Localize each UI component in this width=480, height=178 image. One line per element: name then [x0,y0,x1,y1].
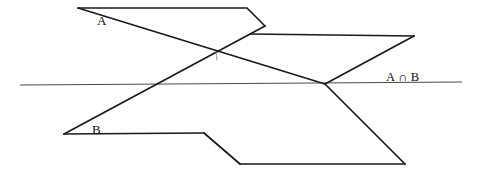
plane-a-mid-edge [250,34,414,36]
plane-b-top-edge [64,133,204,134]
plane-a-left-edge [78,8,325,84]
plane-b-right-edge [325,84,405,164]
plane-a-label: A [97,14,107,27]
plane-b-lower-left-edge [204,133,240,164]
plane-b-label: B [92,123,101,136]
plane-b-left-edge [64,26,265,134]
intersection-label: A ∩ B [386,71,419,84]
edge-tick-mark [216,52,217,60]
geometry-diagram: A B A ∩ B [0,0,480,178]
diagram-canvas [0,0,480,178]
